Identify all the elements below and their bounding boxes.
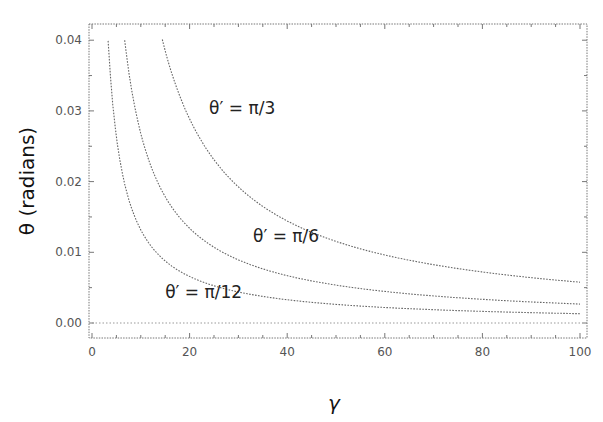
- plot-frame: [89, 24, 587, 338]
- x-tick-label: 40: [280, 345, 295, 359]
- curve-labels: θ′ = π/12θ′ = π/6θ′ = π/3: [165, 98, 319, 302]
- chart: 0204060801000.000.010.020.030.04 θ′ = π/…: [0, 0, 603, 422]
- axis-ticks: [89, 24, 587, 338]
- x-tick-label: 60: [377, 345, 392, 359]
- y-tick-label: 0.00: [55, 316, 82, 330]
- curves: [108, 40, 580, 314]
- x-tick-label: 80: [475, 345, 490, 359]
- x-tick-label: 100: [569, 345, 592, 359]
- curve-3: [162, 40, 580, 283]
- y-tick-label: 0.04: [55, 33, 82, 47]
- axis-tick-labels: 0204060801000.000.010.020.030.04: [55, 33, 591, 359]
- x-axis-title: γ: [328, 391, 341, 415]
- curve-1: [108, 41, 580, 314]
- x-tick-label: 0: [88, 345, 96, 359]
- y-tick-label: 0.03: [55, 104, 82, 118]
- curve-label-1: θ′ = π/12: [165, 282, 242, 302]
- x-tick-label: 20: [182, 345, 197, 359]
- curve-2: [125, 40, 580, 304]
- y-axis-title: θ (radians): [15, 127, 39, 235]
- y-tick-label: 0.01: [55, 245, 82, 259]
- curve-label-2: θ′ = π/6: [253, 226, 319, 246]
- y-tick-label: 0.02: [55, 175, 82, 189]
- curve-label-3: θ′ = π/3: [209, 98, 275, 118]
